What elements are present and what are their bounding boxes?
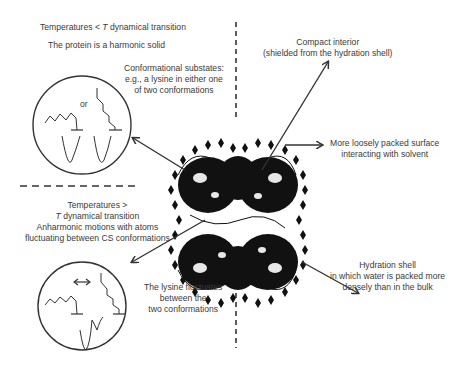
arrow-to-harmonic-circle	[133, 138, 185, 170]
below-transition-title: Temperatures < T dynamical transition	[40, 22, 186, 33]
diagram-canvas	[0, 0, 472, 369]
or-label: or	[80, 99, 88, 110]
loose-surface-label: More loosely packed surface interacting …	[330, 138, 439, 160]
harmonic-solid-label: The protein is a harmonic solid	[48, 40, 165, 51]
above-transition-label: Temperatures > T dynamical transition An…	[25, 200, 170, 244]
hydration-shell-label: Hydration shell in which water is packed…	[330, 260, 445, 293]
conformational-substates-label: Conformational substates: e.g., a lysine…	[124, 63, 224, 96]
anharmonic-circle	[38, 262, 126, 350]
arrow-compact-interior	[262, 62, 328, 170]
lysine-fluctuates-label: The lysine fluctuates between the two co…	[144, 282, 222, 315]
harmonic-circle	[33, 76, 131, 174]
compact-interior-label: Compact interior (shielded from the hydr…	[263, 37, 392, 59]
